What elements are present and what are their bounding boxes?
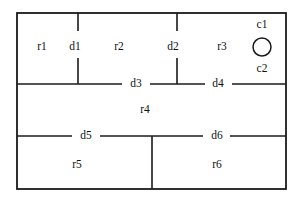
room-label-r3: r3: [217, 40, 227, 52]
room-label-r2: r2: [114, 40, 124, 52]
room-label-r5: r5: [72, 158, 82, 170]
door-label-d5: d5: [80, 129, 92, 141]
room-label-r4: r4: [140, 103, 150, 115]
feature-label-c2: c2: [257, 62, 268, 74]
floorplan-figure: r1 r2 r3 r4 r5 r6 d1 d2 d3 d4 d5 d6 c1 c…: [0, 0, 298, 201]
room-label-r1: r1: [37, 40, 47, 52]
room-label-r6: r6: [212, 158, 222, 170]
floorplan-diagram: r1 r2 r3 r4 r5 r6 d1 d2 d3 d4 d5 d6 c1 c…: [0, 0, 298, 201]
door-label-d1: d1: [69, 40, 81, 52]
feature-label-c1: c1: [257, 18, 268, 30]
circle-feature-icon: [253, 38, 271, 56]
door-label-d2: d2: [167, 40, 179, 52]
door-label-d3: d3: [130, 77, 142, 89]
door-label-d4: d4: [212, 77, 224, 89]
door-label-d6: d6: [211, 129, 223, 141]
